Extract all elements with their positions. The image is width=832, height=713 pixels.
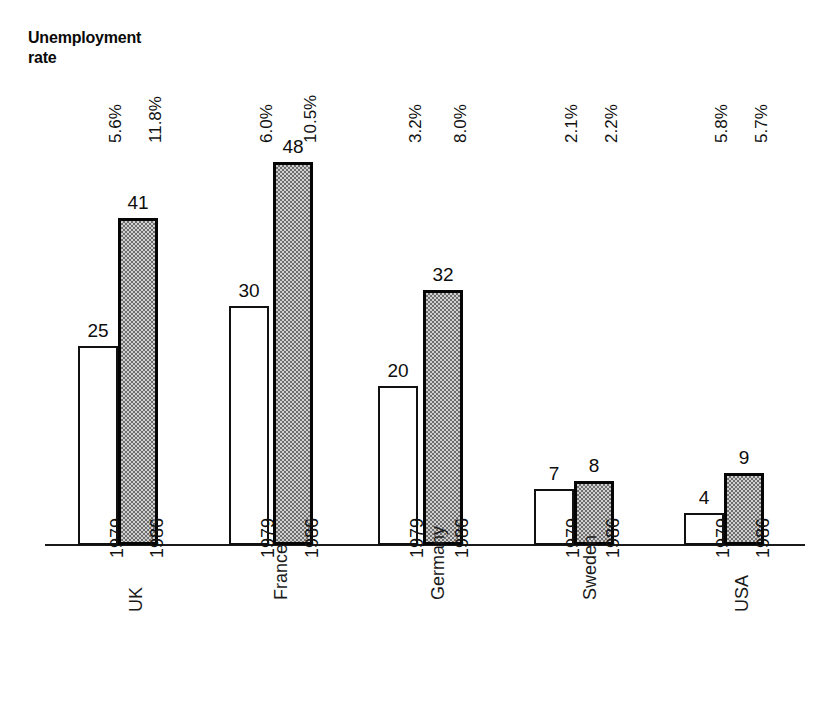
country-label-germany: Germany [428,526,449,600]
country-label-france: France [271,544,292,600]
bar-value-label: 25 [87,320,108,342]
bar-uk-1979 [78,346,118,545]
bar-value-label: 4 [699,487,710,509]
bar-value-label: 9 [739,447,750,469]
year-tick-label: 1986 [302,518,323,558]
unemployment-rate-label: 2.2% [602,104,622,143]
bar-france-1979 [229,306,269,545]
plot-area: 255.6%19794111.8%1986UK306.0%19794810.5%… [0,0,832,713]
year-tick-label: 1986 [452,518,473,558]
bar-uk-1986 [118,218,158,545]
unemployment-rate-label: 2.1% [562,104,582,143]
unemployment-rate-label: 5.6% [106,104,126,143]
unemployment-rate-label: 5.8% [712,104,732,143]
bar-france-1986 [273,162,313,545]
bar-value-label: 7 [549,463,560,485]
bar-value-label: 8 [589,455,600,477]
unemployment-rate-label: 8.0% [451,104,471,143]
chart-figure: Unemployment rate 255.6%19794111.8%1986U… [0,0,832,713]
unemployment-rate-label: 11.8% [146,96,166,143]
year-tick-label: 1986 [603,518,624,558]
bar-value-label: 41 [127,192,148,214]
country-label-usa: USA [732,575,753,612]
bar-germany-1986 [423,290,463,545]
country-label-sweden: Sweden [580,535,601,600]
unemployment-rate-label: 6.0% [257,104,277,143]
bar-value-label: 32 [432,264,453,286]
year-tick-label: 1986 [753,518,774,558]
unemployment-rate-label: 3.2% [406,104,426,143]
bar-value-label: 20 [387,360,408,382]
year-tick-label: 1986 [147,518,168,558]
unemployment-rate-label: 5.7% [752,104,772,143]
bar-value-label: 30 [238,280,259,302]
unemployment-rate-label: 10.5% [301,95,321,143]
country-label-uk: UK [126,587,147,612]
